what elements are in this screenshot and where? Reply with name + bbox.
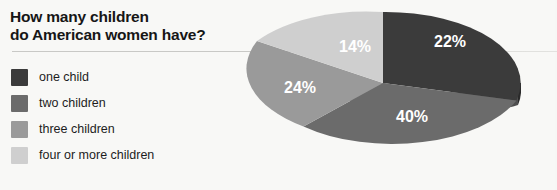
page-title: How many children do American women have…: [10, 8, 258, 44]
legend-swatch-icon-four-or-more-children: [11, 147, 28, 164]
legend-label-two-children: two children: [39, 95, 106, 112]
pie-value-label-two-children: 40%: [396, 108, 428, 125]
pie-value-label-one-child: 22%: [434, 33, 466, 50]
legend-item-four-or-more-children: four or more children: [11, 142, 251, 168]
legend-item-one-child: one child: [11, 64, 251, 90]
pie-value-label-three-children: 24%: [284, 79, 316, 96]
legend-label-three-children: three children: [39, 121, 115, 138]
legend-swatch-icon-one-child: [11, 69, 28, 86]
pie-chart: 22% 40% 24% 14%: [240, 0, 555, 190]
pie-top-face: [246, 11, 520, 143]
legend-label-one-child: one child: [39, 69, 89, 86]
legend-swatch-icon-two-children: [11, 95, 28, 112]
page-title-line-2: do American women have?: [10, 26, 258, 44]
chart-legend: one child two children three children fo…: [11, 64, 251, 168]
page-title-line-1: How many children: [10, 8, 258, 26]
legend-label-four-or-more-children: four or more children: [39, 147, 154, 164]
legend-item-three-children: three children: [11, 116, 251, 142]
left-panel: How many children do American women have…: [0, 0, 262, 190]
pie-chart-svg: 22% 40% 24% 14%: [240, 0, 555, 190]
legend-swatch-icon-three-children: [11, 121, 28, 138]
pie-value-label-four-or-more-children: 14%: [339, 38, 371, 55]
legend-item-two-children: two children: [11, 90, 251, 116]
